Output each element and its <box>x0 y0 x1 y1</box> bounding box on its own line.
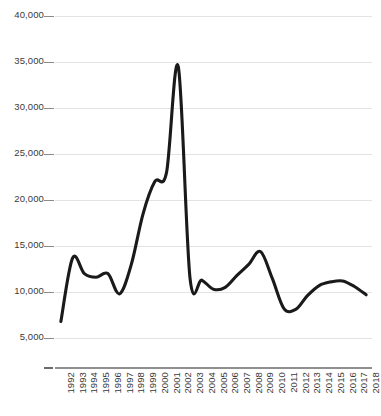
y-axis-tick-40000 <box>44 16 54 17</box>
x-axis-label-2016: 2016 <box>347 372 358 394</box>
x-axis-label-2003: 2003 <box>194 372 205 394</box>
y-axis-tick-30000 <box>44 108 54 109</box>
x-axis-label-1995: 1995 <box>100 372 111 394</box>
y-axis-label-35000: 35,000 <box>0 55 44 66</box>
y-axis-tick-5000 <box>44 338 54 339</box>
y-axis-label-20000: 20,000 <box>0 193 44 204</box>
x-axis-label-2005: 2005 <box>218 372 229 394</box>
gridline-5000 <box>55 338 372 339</box>
x-axis-baseline <box>55 367 372 369</box>
y-axis-label-5000: 5,000 <box>0 331 44 342</box>
y-axis-label-10000: 10,000 <box>0 285 44 296</box>
x-axis-label-2015: 2015 <box>335 372 346 394</box>
gridline-10000 <box>55 292 372 293</box>
x-axis-label-2002: 2002 <box>182 372 193 394</box>
gridline-30000 <box>55 108 372 109</box>
x-axis-label-2010: 2010 <box>276 372 287 394</box>
x-axis-label-2009: 2009 <box>264 372 275 394</box>
gridline-40000 <box>55 16 372 17</box>
gridline-20000 <box>55 200 372 201</box>
x-axis-label-2007: 2007 <box>241 372 252 394</box>
x-axis-label-1999: 1999 <box>147 372 158 394</box>
y-axis-tick-10000 <box>44 292 54 293</box>
x-axis-label-2011: 2011 <box>288 372 299 393</box>
y-axis-tick-15000 <box>44 246 54 247</box>
x-axis-origin-tick <box>44 367 53 369</box>
x-axis-label-2008: 2008 <box>253 372 264 394</box>
gridline-15000 <box>55 246 372 247</box>
x-axis-label-1998: 1998 <box>135 372 146 394</box>
x-axis-label-2006: 2006 <box>229 372 240 394</box>
x-axis-label-2000: 2000 <box>159 372 170 394</box>
x-axis-label-2018: 2018 <box>370 372 381 394</box>
y-axis-label-30000: 30,000 <box>0 101 44 112</box>
y-axis-tick-25000 <box>44 154 54 155</box>
x-axis-label-2012: 2012 <box>300 372 311 394</box>
gridline-25000 <box>55 154 372 155</box>
x-axis-label-1992: 1992 <box>65 372 76 394</box>
x-axis-label-2001: 2001 <box>171 372 182 394</box>
series-line-path <box>61 65 366 322</box>
y-axis-label-40000: 40,000 <box>0 9 44 20</box>
x-axis-label-2017: 2017 <box>358 372 369 394</box>
y-axis-tick-35000 <box>44 62 54 63</box>
x-axis-label-1996: 1996 <box>112 372 123 394</box>
y-axis-label-25000: 25,000 <box>0 147 44 158</box>
x-axis-label-1997: 1997 <box>124 372 135 394</box>
x-axis-label-2013: 2013 <box>311 372 322 394</box>
x-axis-label-1993: 1993 <box>77 372 88 394</box>
x-axis-label-2014: 2014 <box>323 372 334 394</box>
gridline-35000 <box>55 62 372 63</box>
y-axis-tick-20000 <box>44 200 54 201</box>
y-axis-label-15000: 15,000 <box>0 239 44 250</box>
x-axis-label-1994: 1994 <box>88 372 99 394</box>
x-axis-label-2004: 2004 <box>206 372 217 394</box>
